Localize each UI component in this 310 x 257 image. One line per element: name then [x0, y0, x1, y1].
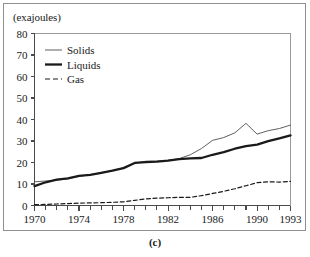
- y-axis-tick-labels: 01020304050607080: [17, 28, 29, 212]
- series-line-liquids: [35, 135, 291, 186]
- y-tick-label: 50: [17, 92, 29, 104]
- x-axis-tick-labels: 1970197419781982198619901993: [24, 213, 303, 225]
- y-tick-label: 20: [17, 157, 29, 169]
- y-tick-label: 10: [17, 178, 29, 190]
- line-chart: 01020304050607080 1970197419781982198619…: [0, 0, 310, 232]
- legend-label-gas: Gas: [67, 73, 84, 85]
- data-series-layer: [35, 123, 291, 204]
- y-tick-label: 0: [22, 200, 28, 212]
- y-tick-label: 40: [17, 114, 29, 126]
- y-tick-label: 60: [17, 71, 29, 83]
- y-tick-label: 30: [17, 135, 29, 147]
- x-tick-label: 1974: [68, 213, 91, 225]
- series-line-solids: [35, 123, 291, 181]
- x-tick-label: 1970: [24, 213, 47, 225]
- x-tick-label: 1990: [246, 213, 269, 225]
- chart-legend: SolidsLiquidsGas: [45, 44, 101, 85]
- x-axis-ticks: [35, 206, 291, 211]
- x-tick-label: 1982: [157, 213, 179, 225]
- legend-label-solids: Solids: [67, 44, 95, 56]
- figure-panel: (exajoules) 01020304050607080 1970197419…: [0, 0, 310, 257]
- legend-label-liquids: Liquids: [67, 59, 101, 71]
- series-line-gas: [35, 181, 291, 204]
- figure-caption: (c): [0, 236, 310, 248]
- y-tick-label: 80: [17, 28, 29, 40]
- x-tick-label: 1986: [202, 213, 225, 225]
- y-tick-label: 70: [17, 49, 29, 61]
- x-tick-label: 1978: [113, 213, 136, 225]
- x-tick-label: 1993: [280, 213, 303, 225]
